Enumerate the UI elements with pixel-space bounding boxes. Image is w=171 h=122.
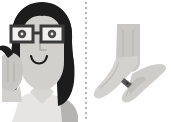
woman-with-glasses-panel [0, 0, 84, 122]
woman-illustration [0, 0, 84, 122]
eye-highlight-right [51, 33, 54, 36]
sign-language-hands-panel [88, 0, 171, 122]
hand-palm [2, 52, 23, 92]
illustration-canvas [0, 0, 171, 122]
dotted-vertical-divider [85, 2, 87, 120]
hands-illustration [88, 0, 171, 122]
contact-dot [125, 81, 128, 84]
eye-highlight-left [21, 33, 24, 36]
